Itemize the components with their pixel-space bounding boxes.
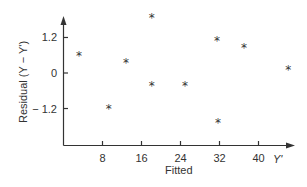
data-points: **********: [76, 11, 291, 130]
asterisk-marker-icon: *: [149, 79, 155, 93]
y-axis-label: Residual (Y − Y'): [17, 41, 29, 123]
asterisk-marker-icon: *: [123, 56, 129, 70]
y-ticks: 1.20− 1.2: [32, 31, 68, 114]
x-axis-arrow-icon: [286, 143, 295, 149]
x-ticks: 816243240: [99, 141, 264, 164]
y-axis-arrow-icon: [61, 16, 67, 25]
x-tick-label: 8: [99, 152, 105, 164]
x-tick-label: 32: [213, 152, 225, 164]
y-tick-label: 0: [51, 67, 57, 79]
x-axis-label: Fitted: [165, 164, 193, 176]
asterisk-marker-icon: *: [182, 79, 188, 93]
asterisk-marker-icon: *: [149, 11, 155, 25]
x-tick-label: 16: [135, 152, 147, 164]
x-axis-end-label: Y': [273, 153, 283, 165]
asterisk-marker-icon: *: [285, 63, 291, 77]
x-tick-label: 24: [174, 152, 186, 164]
asterisk-marker-icon: *: [214, 34, 220, 48]
asterisk-marker-icon: *: [76, 49, 82, 63]
residual-plot: 1.20− 1.2 816243240 ********** Fitted Y'…: [0, 0, 307, 187]
asterisk-marker-icon: *: [215, 116, 221, 130]
y-tick-label: − 1.2: [32, 103, 57, 115]
asterisk-marker-icon: *: [241, 41, 247, 55]
y-tick-label: 1.2: [42, 31, 57, 43]
asterisk-marker-icon: *: [106, 102, 112, 116]
x-tick-label: 40: [252, 152, 264, 164]
axes: [61, 16, 296, 149]
